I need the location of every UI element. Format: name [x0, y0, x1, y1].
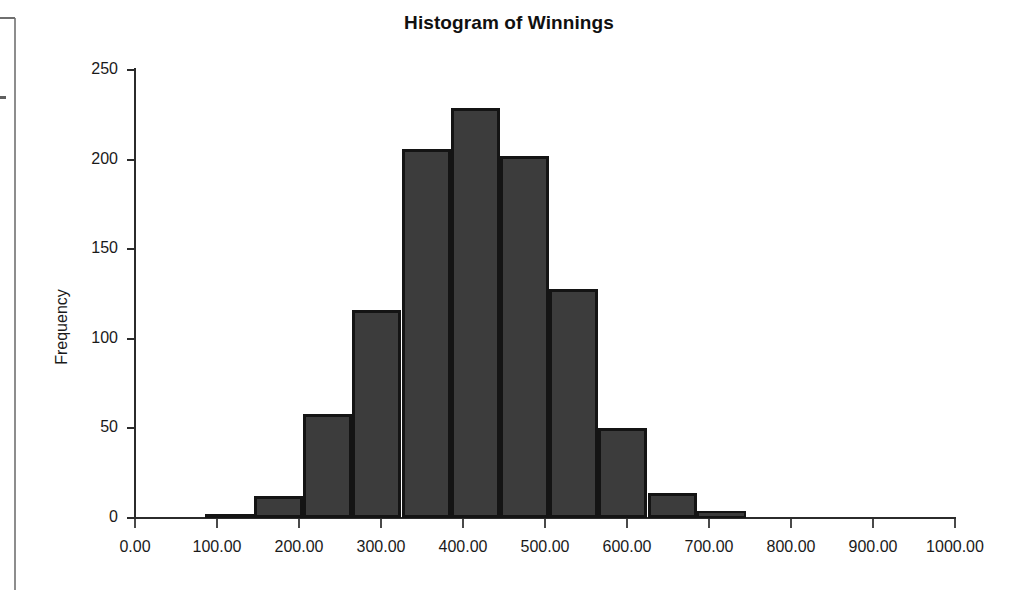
x-axis-tick — [954, 519, 956, 528]
y-axis-tick-label: 250 — [58, 60, 118, 78]
x-axis-tick — [790, 519, 792, 528]
y-axis-tick — [127, 69, 135, 71]
histogram-bar — [697, 511, 746, 518]
y-axis-tick-label: 150 — [58, 239, 118, 257]
histogram-bar — [500, 156, 549, 518]
y-axis-title: Frequency — [53, 257, 71, 397]
y-axis-tick-label: 100 — [58, 329, 118, 347]
histogram-bar — [598, 428, 647, 518]
histogram-bar — [648, 493, 697, 518]
histogram-bar — [352, 310, 401, 518]
x-axis-tick — [544, 519, 546, 528]
histogram-bar — [303, 414, 352, 518]
chart-title: Histogram of Winnings — [0, 12, 1018, 34]
histogram-bar — [451, 108, 500, 518]
y-axis-tick-label: 200 — [58, 150, 118, 168]
x-axis-tick-label: 1000.00 — [900, 538, 1010, 556]
histogram-bar — [254, 496, 303, 518]
y-axis-tick — [127, 159, 135, 161]
y-axis-tick — [127, 427, 135, 429]
x-axis-tick — [134, 519, 136, 528]
x-axis-tick — [708, 519, 710, 528]
x-axis-tick — [626, 519, 628, 528]
y-axis-line — [134, 68, 136, 520]
y-axis-tick — [127, 338, 135, 340]
histogram-chart: Histogram of Winnings Frequency 05010015… — [0, 0, 1018, 590]
x-axis-tick — [462, 519, 464, 528]
histogram-bar — [549, 289, 598, 518]
x-axis-tick — [872, 519, 874, 528]
x-axis-tick — [380, 519, 382, 528]
y-axis-tick — [127, 248, 135, 250]
histogram-bar — [205, 514, 254, 518]
y-axis-tick-label: 0 — [58, 508, 118, 526]
histogram-bar — [402, 149, 451, 518]
y-axis-tick-label: 50 — [58, 418, 118, 436]
x-axis-tick — [298, 519, 300, 528]
x-axis-tick — [216, 519, 218, 528]
